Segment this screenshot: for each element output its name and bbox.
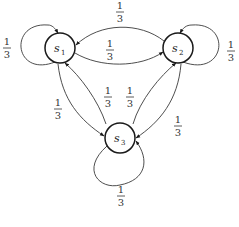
label-edge-s2-s1: 1 3 xyxy=(116,0,124,24)
denominator: 3 xyxy=(228,52,234,63)
numerator: 1 xyxy=(127,85,133,96)
denominator: 3 xyxy=(127,98,133,109)
node-s1-subscript: 1 xyxy=(61,49,65,57)
denominator: 3 xyxy=(118,197,124,208)
label-edge-s3-s2: 1 3 xyxy=(126,85,134,109)
numerator: 1 xyxy=(118,184,124,195)
node-s3: s 3 xyxy=(105,123,135,153)
numerator: 1 xyxy=(117,0,123,11)
node-s2-subscript: 2 xyxy=(179,49,183,57)
denominator: 3 xyxy=(117,13,123,24)
markov-chain-diagram: s 1 s 2 s 3 1 3 1 3 1 3 1 3 1 3 xyxy=(0,0,239,227)
numerator: 1 xyxy=(175,114,181,125)
node-s2: s 2 xyxy=(163,33,193,63)
edge-s1-s3 xyxy=(58,64,104,136)
label-edge-s1-s3: 1 3 xyxy=(54,97,62,121)
label-edge-s2-s3: 1 3 xyxy=(174,114,182,138)
edge-s3-s2 xyxy=(133,63,176,124)
numerator: 1 xyxy=(228,39,234,50)
label-edge-s3-s3: 1 3 xyxy=(117,184,125,208)
edge-s1-s2 xyxy=(75,52,163,64)
label-edge-s1-s2: 1 3 xyxy=(106,38,114,62)
node-s3-label: s xyxy=(114,132,120,145)
numerator: 1 xyxy=(107,38,113,49)
edge-s3-s1 xyxy=(65,63,106,124)
numerator: 1 xyxy=(55,97,61,108)
numerator: 1 xyxy=(105,85,111,96)
edge-s2-s1 xyxy=(76,27,164,45)
denominator: 3 xyxy=(4,49,10,60)
label-edge-s2-s2: 1 3 xyxy=(227,39,235,63)
label-edge-s1-s1: 1 3 xyxy=(3,36,11,60)
denominator: 3 xyxy=(107,51,113,62)
node-s3-subscript: 3 xyxy=(121,139,125,147)
numerator: 1 xyxy=(4,36,10,47)
node-s1: s 1 xyxy=(45,33,75,63)
denominator: 3 xyxy=(105,98,111,109)
node-s2-label: s xyxy=(172,42,178,55)
denominator: 3 xyxy=(55,110,61,121)
node-s1-label: s xyxy=(54,42,60,55)
denominator: 3 xyxy=(175,127,181,138)
label-edge-s3-s1: 1 3 xyxy=(104,85,112,109)
